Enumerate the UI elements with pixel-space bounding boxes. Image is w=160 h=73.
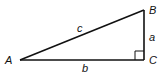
vertex-label-a: A xyxy=(4,54,12,66)
side-c-hypotenuse xyxy=(20,10,144,60)
side-label-b: b xyxy=(82,62,88,73)
right-triangle-diagram: A B C a b c xyxy=(0,0,160,73)
vertex-label-c: C xyxy=(149,54,157,66)
vertex-label-b: B xyxy=(149,4,156,16)
side-label-c: c xyxy=(77,22,83,34)
side-label-a: a xyxy=(149,31,155,43)
right-angle-marker xyxy=(135,51,144,60)
